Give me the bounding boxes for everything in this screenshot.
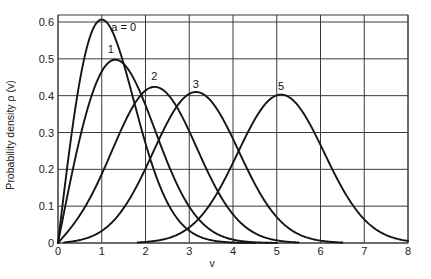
curve-label: 5 xyxy=(278,80,284,92)
y-tick-label: 0.4 xyxy=(39,90,54,102)
x-tick-label: 8 xyxy=(405,245,411,257)
y-tick-label: 0.1 xyxy=(39,200,54,212)
y-tick-label: 0.2 xyxy=(39,163,54,175)
curve-label: a = 0 xyxy=(111,21,136,33)
chart-canvas: 012345678 00.10.20.30.40.50.6 a = 01235 … xyxy=(0,0,431,279)
curve-label: 2 xyxy=(151,70,157,82)
x-axis-label: v xyxy=(209,257,215,269)
curve-label: 1 xyxy=(108,43,114,55)
x-tick-label: 7 xyxy=(361,245,367,257)
curve-a-1 xyxy=(58,60,277,243)
x-axis-ticks: 012345678 xyxy=(55,245,411,257)
x-tick-label: 6 xyxy=(317,245,323,257)
y-tick-label: 0 xyxy=(48,237,54,249)
curve-label: 3 xyxy=(193,78,199,90)
x-tick-label: 3 xyxy=(186,245,192,257)
x-tick-label: 4 xyxy=(230,245,236,257)
curve-a-3 xyxy=(64,92,342,243)
x-tick-label: 5 xyxy=(274,245,280,257)
y-axis-label: Probability density ρ (v) xyxy=(4,80,16,189)
x-tick-label: 1 xyxy=(99,245,105,257)
x-tick-label: 2 xyxy=(142,245,148,257)
y-tick-label: 0.5 xyxy=(39,53,54,65)
y-tick-label: 0.3 xyxy=(39,127,54,139)
x-tick-label: 0 xyxy=(55,245,61,257)
y-axis-ticks: 00.10.20.30.40.50.6 xyxy=(39,16,54,249)
y-tick-label: 0.6 xyxy=(39,16,54,28)
